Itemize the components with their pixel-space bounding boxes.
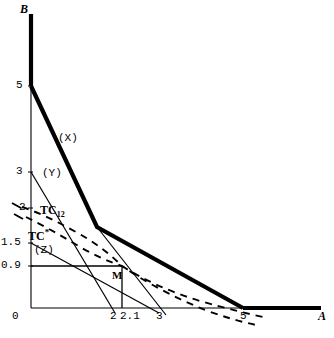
y-tick-3: 3 [16,166,23,177]
tc12-base: TC [40,203,57,217]
y-tick-5: 5 [16,80,23,91]
m-ray-line [97,227,166,315]
point-label-m: M [112,270,122,281]
tcstar-base: TC [28,229,45,243]
x-axis-label: A [318,311,326,322]
curve-label-tc12: TC12 [40,205,65,220]
y-axis-label: B [20,4,28,15]
tc12-subscript: 12 [57,210,65,219]
x-tick-5: 5 [240,311,247,322]
curve-label-tcstar: TC* [28,227,49,242]
curve-tcstar-dashed [26,217,256,325]
diagram-canvas: B A 0 5 3 2 1.5 0.9 2 2.1 3 5 (X) (Y) (Z… [0,0,334,338]
y-tick-2: 2 [19,202,26,213]
y-tick-0-9: 0.9 [1,260,21,271]
tcstar-axis-stub [14,214,23,219]
origin-label: 0 [12,311,19,322]
tcstar-superscript: * [45,227,50,237]
curve-label-y: (Y) [42,168,62,179]
y-tick-1-5: 1.5 [1,237,21,248]
x-tick-3: 3 [156,311,163,322]
curve-label-x: (X) [58,133,78,144]
x-tick-2-1: 2.1 [120,311,140,322]
x-tick-2: 2 [110,311,117,322]
curve-label-z: (Z) [34,245,54,256]
